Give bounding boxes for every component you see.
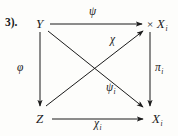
- object-Z: Z: [36, 112, 43, 125]
- morphism-label-phi: φ: [17, 62, 23, 74]
- object-X-i: Xi: [152, 112, 162, 125]
- morphism-psi-i-name: ψ: [106, 81, 113, 93]
- morphism-pi-i-name: π: [155, 61, 161, 73]
- morphism-chi-i-index: i: [99, 123, 101, 132]
- morphism-label-psi-i: ψi: [106, 82, 115, 94]
- object-Z-name: Z: [36, 111, 43, 126]
- object-product-name: X: [157, 16, 165, 31]
- object-X-i-name: X: [152, 111, 160, 126]
- object-X-i-index: i: [161, 119, 163, 128]
- morphism-label-chi-i: χi: [94, 118, 101, 130]
- object-Y-name: Y: [36, 16, 43, 31]
- morphism-label-pi-i: πi: [155, 62, 163, 74]
- morphism-psi-name: ψ: [89, 5, 96, 17]
- object-Y: Y: [36, 17, 43, 30]
- commutative-diagram: 3). Y × Xi Z Xi ψ φ χ ψi πi: [0, 0, 178, 136]
- morphism-chi-name: χ: [110, 33, 115, 45]
- morphism-psi-i-index: i: [114, 87, 116, 96]
- morphism-label-chi: χ: [110, 34, 115, 46]
- morphism-label-psi: ψ: [89, 6, 96, 18]
- morphism-phi-name: φ: [17, 61, 23, 73]
- morphism-pi-i-index: i: [161, 67, 163, 76]
- object-product-X-i: × Xi: [147, 17, 167, 30]
- object-product-index: i: [165, 24, 167, 33]
